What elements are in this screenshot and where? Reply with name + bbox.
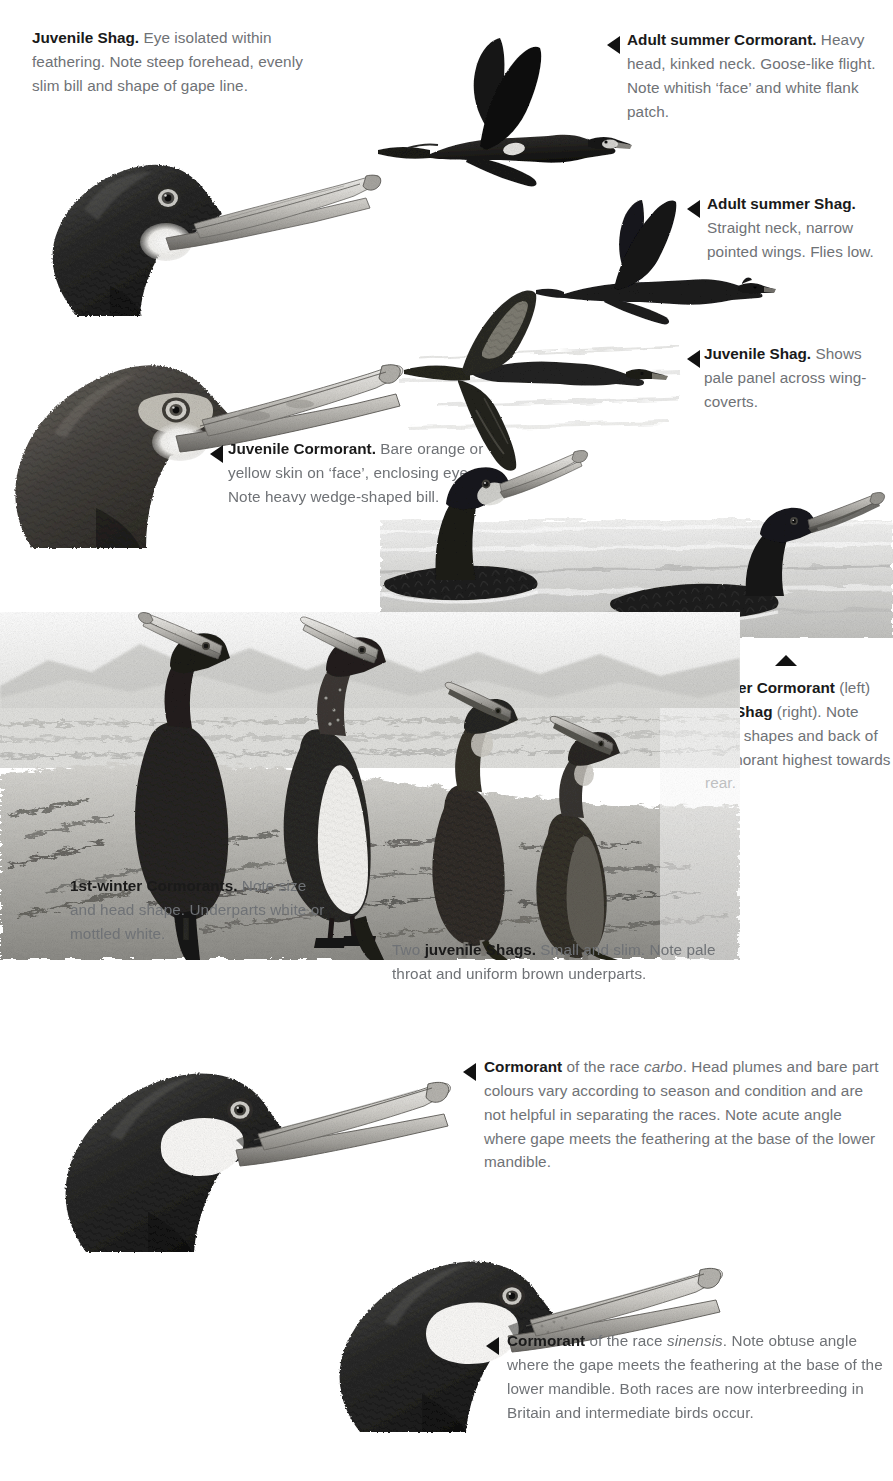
caption-lead: Cormorant [484,1058,562,1075]
caption-race-sinensis: Cormorant of the race sinensis. Note obt… [507,1329,893,1424]
caption-pre: Two [392,941,425,958]
caption-winter-cormorant-shag: Winter Cormorant (left) and Shag (right)… [705,676,893,795]
caption-lead-secondary: Shag [735,703,772,720]
caption-body: Straight neck, narrow pointed wings. Fli… [707,219,874,260]
marker-adult-summer-shag [687,200,700,218]
illustration-adult-summer-cormorant-flight [372,28,632,188]
caption-mid: of the race [562,1058,644,1075]
marker-winter-cormorant-shag [775,655,797,666]
caption-two-juvenile-shags: Two juvenile Shags. Small and slim. Note… [392,938,722,986]
caption-mid: of the race [585,1332,667,1349]
caption-lead: Adult summer Cormorant. [627,31,817,48]
caption-race-name: carbo [644,1058,683,1075]
caption-lead: juvenile Shags. [425,941,536,958]
marker-adult-summer-cormorant [607,36,620,54]
caption-juvenile-cormorant-head: Juvenile Cormorant. Bare orange or yello… [228,437,496,509]
marker-juvenile-shag-flight [687,350,700,368]
caption-lead: Juvenile Shag. [32,29,139,46]
illustration-cormorant-carbo-head [40,1014,460,1254]
caption-lead: Juvenile Cormorant. [228,440,376,457]
caption-lead: Cormorant [507,1332,585,1349]
caption-juvenile-shag-flight: Juvenile Shag. Shows pale panel across w… [704,342,893,414]
illustration-juvenile-shag-head [14,118,386,318]
caption-lead: 1st-winter Cormorants. [70,877,237,894]
caption-first-winter-cormorants: 1st-winter Cormorants. Note size and hea… [70,874,330,946]
caption-race-name: sinensis [667,1332,723,1349]
illustration-juvenile-cormorant-head [4,296,404,556]
caption-lead: Adult summer Shag. [707,195,856,212]
caption-juvenile-shag-head: Juvenile Shag. Eye isolated within feath… [32,26,332,98]
caption-lead: Winter Cormorant [705,679,835,696]
caption-lead: Juvenile Shag. [704,345,811,362]
marker-juvenile-cormorant-head [210,445,223,463]
marker-race-carbo [463,1063,476,1081]
marker-race-sinensis [486,1337,499,1355]
caption-race-carbo: Cormorant of the race carbo. Head plumes… [484,1055,884,1174]
caption-adult-summer-shag: Adult summer Shag. Straight neck, narrow… [707,192,893,264]
plate-page: Juvenile Shag. Eye isolated within feath… [0,0,893,1481]
caption-adult-summer-cormorant: Adult summer Cormorant. Heavy head, kink… [627,28,889,123]
